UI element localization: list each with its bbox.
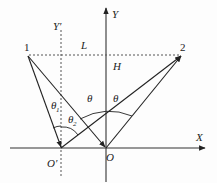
y-axis-label: Y bbox=[112, 8, 120, 20]
ray-o-prime-to-2 bbox=[61, 56, 181, 148]
theta-right-label: θ bbox=[113, 92, 119, 104]
diagram-canvas: Y X Y′ L H 1 2 O′ O θ θ θ 1 θ 2 bbox=[0, 0, 217, 183]
point-1-label: 1 bbox=[24, 41, 30, 53]
segment-h-label: H bbox=[112, 60, 122, 72]
o-prime-label: O′ bbox=[47, 157, 58, 169]
theta1-subscript: 1 bbox=[56, 106, 60, 114]
point-2-label: 2 bbox=[180, 41, 186, 53]
diagram-svg: Y X Y′ L H 1 2 O′ O θ θ θ 1 θ 2 bbox=[0, 0, 217, 183]
y-prime-axis-label: Y′ bbox=[53, 20, 62, 32]
x-axis-label: X bbox=[195, 131, 204, 143]
ray-1-to-o bbox=[28, 56, 105, 147]
arc-theta1 bbox=[53, 126, 61, 128]
theta2-subscript: 2 bbox=[73, 120, 77, 128]
o-label: O bbox=[106, 151, 114, 163]
segment-l-label: L bbox=[80, 39, 87, 51]
theta-left-label: θ bbox=[87, 92, 93, 104]
arc-theta2 bbox=[61, 127, 78, 135]
